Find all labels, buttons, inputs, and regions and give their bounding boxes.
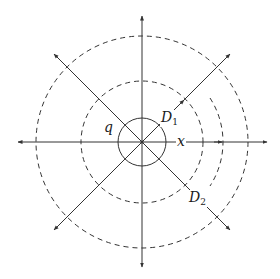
mid-arrow-upper-right [178, 100, 184, 106]
center-point [141, 141, 144, 144]
radial-field-diagram [0, 0, 280, 279]
label-q: q [104, 120, 113, 134]
diagonal-upper-left [54, 54, 142, 142]
diagonal-lower-right [142, 142, 230, 230]
diagonal-upper-right [142, 54, 230, 142]
label-d2: D2 [188, 190, 207, 207]
label-d1: D1 [160, 110, 179, 127]
label-x: x [176, 134, 186, 148]
diagonal-lower-left [54, 142, 142, 230]
